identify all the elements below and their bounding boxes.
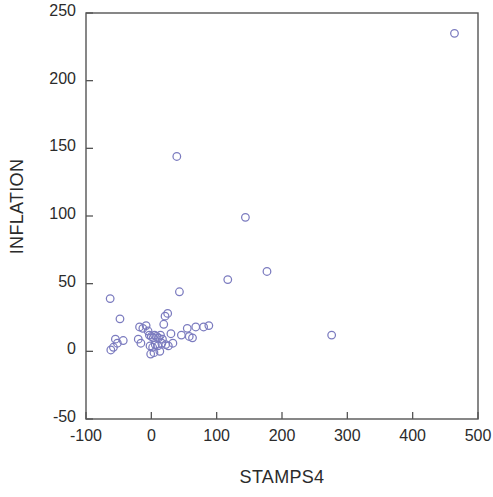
y-tick-label: 0	[0, 340, 76, 358]
scatter-plot-figure: INFLATION STAMPS4 -1000100200300400500 -…	[0, 0, 493, 497]
scatter-point	[224, 276, 232, 284]
x-axis-tick-marks	[86, 412, 478, 419]
x-tick-label: 500	[438, 427, 493, 445]
scatter-point	[205, 322, 213, 330]
scatter-point	[242, 214, 250, 222]
y-tick-label: -50	[0, 408, 76, 426]
scatter-point	[106, 295, 114, 303]
y-tick-label: 250	[0, 2, 76, 20]
scatter-point	[167, 330, 175, 338]
y-tick-label: 150	[0, 137, 76, 155]
scatter-point	[263, 268, 271, 276]
scatter-point	[451, 30, 459, 38]
scatter-point	[116, 315, 124, 323]
y-axis-tick-marks	[86, 13, 93, 419]
scatter-point	[200, 323, 208, 331]
scatter-point	[192, 323, 200, 331]
scatter-point	[178, 331, 186, 339]
scatter-point	[183, 325, 191, 333]
plot-frame	[86, 13, 478, 419]
plot-frame-rect	[86, 13, 478, 419]
y-tick-label: 50	[0, 273, 76, 291]
scatter-point	[160, 320, 168, 328]
scatter-point	[328, 331, 336, 339]
y-tick-label: 200	[0, 70, 76, 88]
scatter-point	[176, 288, 184, 296]
y-tick-label: 100	[0, 205, 76, 223]
scatter-points-group	[106, 30, 458, 358]
scatter-point	[173, 153, 181, 161]
